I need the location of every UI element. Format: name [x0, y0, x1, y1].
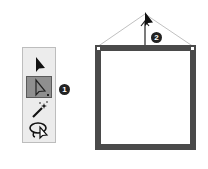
callout-badge-2: 2 [151, 32, 162, 43]
cursor-arrow-icon [145, 12, 153, 26]
drag-arrow [0, 0, 208, 169]
